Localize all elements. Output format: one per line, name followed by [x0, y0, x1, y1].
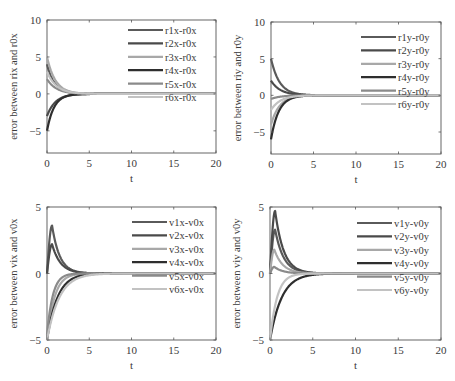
x-tick-label: 0	[268, 158, 274, 170]
y-axis-label: error between riy and r0y	[232, 34, 243, 141]
y-tick-label: 0	[260, 89, 266, 101]
legend-label: r4y-r0y	[398, 72, 430, 83]
x-tick-label: 10	[351, 158, 363, 170]
legend-label: r6y-r0y	[398, 99, 430, 110]
y-tick-label: 0	[36, 88, 42, 100]
legend-label: v3x-v0x	[169, 244, 205, 255]
y-tick-label: 0	[36, 268, 42, 280]
x-tick-label: 0	[44, 344, 50, 356]
legend-label: v4y-v0y	[394, 258, 430, 269]
figure-canvas: 05101520−50510terror between rix and r0x…	[0, 0, 455, 381]
x-tick-label: 20	[211, 157, 223, 169]
x-tick-label: 5	[311, 158, 317, 170]
legend-label: v4x-v0x	[169, 257, 205, 268]
y-tick-label: 5	[260, 53, 266, 65]
legend-label: r5y-r0y	[398, 86, 430, 97]
legend-label: v1y-v0y	[394, 218, 430, 229]
x-axis-label: t	[130, 359, 133, 371]
x-tick-label: 10	[126, 157, 138, 169]
x-tick-label: 0	[44, 157, 50, 169]
legend-label: v3y-v0y	[394, 245, 430, 256]
legend-label: r4x-r0x	[165, 65, 197, 76]
legend-label: r3y-r0y	[398, 59, 430, 70]
x-tick-label: 15	[393, 158, 405, 170]
subplot-2: 05101520−50510terror between riy and r0y…	[232, 16, 447, 185]
legend-label: r6x-r0x	[165, 92, 197, 103]
legend-label: r1y-r0y	[398, 32, 430, 43]
legend-label: v6y-v0y	[394, 285, 430, 296]
x-tick-label: 5	[310, 344, 316, 356]
x-tick-label: 20	[211, 344, 223, 356]
y-tick-label: 5	[36, 51, 42, 63]
y-tick-label: 0	[259, 268, 265, 280]
legend-label: r2y-r0y	[398, 45, 430, 56]
legend-label: v1x-v0x	[169, 217, 205, 228]
x-tick-label: 20	[436, 158, 448, 170]
y-tick-label: −5	[252, 334, 264, 346]
x-tick-label: 5	[87, 157, 93, 169]
legend-label: v5x-v0x	[169, 271, 205, 282]
figure: 05101520−50510terror between rix and r0x…	[0, 0, 455, 381]
subplot-3: 05101520−505terror between vix and v0xv1…	[8, 201, 222, 371]
y-axis-label: error between viy and v0y	[231, 218, 242, 329]
legend-label: r3x-r0x	[165, 52, 197, 63]
x-tick-label: 10	[350, 344, 362, 356]
y-tick-label: 5	[36, 201, 42, 213]
x-axis-label: t	[354, 173, 357, 185]
x-tick-label: 20	[436, 344, 448, 356]
subplot-1: 05101520−50510terror between rix and r0x…	[8, 14, 222, 184]
x-tick-label: 5	[87, 344, 93, 356]
legend-label: v6x-v0x	[169, 284, 205, 295]
legend-label: v2x-v0x	[169, 230, 205, 241]
y-tick-label: 10	[30, 14, 42, 26]
x-axis-label: t	[130, 172, 133, 184]
legend-label: v2y-v0y	[394, 231, 430, 242]
x-tick-label: 15	[393, 344, 405, 356]
y-tick-label: −5	[253, 126, 265, 138]
y-tick-label: −5	[29, 334, 41, 346]
subplot-4: 05101520−505terror between viy and v0yv1…	[231, 201, 447, 371]
y-tick-label: 10	[254, 16, 266, 28]
y-axis-label: error between rix and r0x	[8, 32, 19, 139]
y-tick-label: 5	[259, 201, 265, 213]
x-tick-label: 15	[168, 344, 180, 356]
x-tick-label: 0	[267, 344, 273, 356]
x-axis-label: t	[354, 359, 357, 371]
x-tick-label: 15	[168, 157, 180, 169]
legend-label: v5y-v0y	[394, 272, 430, 283]
legend-label: r1x-r0x	[165, 25, 197, 36]
y-tick-label: −5	[29, 125, 41, 137]
x-tick-label: 10	[126, 344, 138, 356]
legend-label: r2x-r0x	[165, 38, 197, 49]
legend-label: r5x-r0x	[165, 79, 197, 90]
y-axis-label: error between vix and v0x	[8, 218, 19, 329]
